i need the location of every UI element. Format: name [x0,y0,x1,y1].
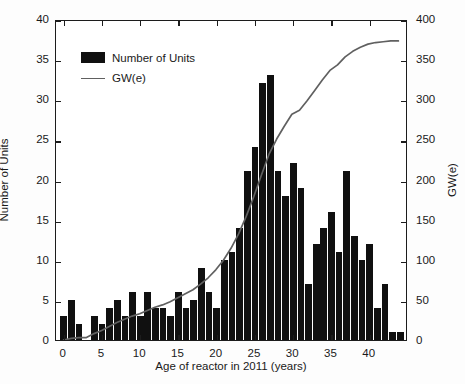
y-tick-label-right: 400 [416,14,435,26]
y-tick-label-left: 0 [16,335,49,347]
y-tick-label-left: 10 [16,255,49,267]
y-tick-label-left: 15 [16,215,49,227]
x-tick-top [293,21,294,26]
x-tick-bottom [102,335,103,340]
y-tick-label-right: 200 [416,175,435,187]
y-tick-left [56,182,61,183]
x-tick-bottom [293,335,294,340]
x-tick-bottom [331,335,332,340]
legend: Number of Units GW(e) [81,49,206,89]
x-tick-top [140,21,141,26]
y-tick-label-left: 35 [16,54,49,66]
y-tick-left [56,101,61,102]
y-tick-right [401,222,406,223]
x-tick-bottom [64,335,65,340]
y-tick-label-right: 250 [416,135,435,147]
x-tick-bottom [255,335,256,340]
y-tick-label-right: 150 [416,215,435,227]
y-tick-label-left: 30 [16,95,49,107]
y-tick-right [401,141,406,142]
x-tick-label: 15 [171,348,184,360]
legend-label-number-of-units: Number of Units [112,52,195,64]
y-tick-left [56,21,61,22]
legend-item-number-of-units: Number of Units [81,49,206,66]
x-tick-top [217,21,218,26]
y-tick-label-right: 300 [416,95,435,107]
x-tick-top [64,21,65,26]
x-tick-bottom [140,335,141,340]
x-tick-bottom [370,335,371,340]
y-axis-title-right: GW(e) [446,163,458,197]
legend-line-swatch-icon [81,72,105,83]
y-tick-left [56,141,61,142]
y-tick-left [56,222,61,223]
y-tick-right [401,302,406,303]
x-tick-top [102,21,103,26]
legend-item-gwe: GW(e) [81,69,206,86]
x-tick-label: 10 [133,348,146,360]
y-tick-right [401,262,406,263]
figure-canvas: Number of Units GW(e) Age of reactor in … [0,0,465,384]
x-tick-label: 25 [248,348,261,360]
y-tick-left [56,262,61,263]
x-tick-label: 35 [324,348,337,360]
y-axis-title-left: Number of Units [0,138,10,221]
y-tick-left [56,61,61,62]
x-tick-top [331,21,332,26]
x-tick-bottom [178,335,179,340]
y-tick-label-right: 50 [416,295,429,307]
y-tick-label-left: 20 [16,175,49,187]
y-tick-label-right: 350 [416,54,435,66]
x-tick-label: 0 [59,348,65,360]
y-tick-label-left: 5 [16,295,49,307]
x-tick-label: 5 [98,348,104,360]
y-tick-right [401,61,406,62]
plot-area: Number of Units GW(e) [55,20,407,341]
x-tick-top [178,21,179,26]
y-tick-label-right: 0 [416,335,422,347]
x-tick-bottom [217,335,218,340]
x-tick-label: 20 [209,348,222,360]
y-tick-label-left: 25 [16,135,49,147]
y-tick-right [401,21,406,22]
x-tick-label: 30 [286,348,299,360]
y-tick-label-left: 40 [16,14,49,26]
y-tick-right [401,101,406,102]
x-tick-top [255,21,256,26]
x-tick-top [370,21,371,26]
y-tick-right [401,182,406,183]
x-axis-title: Age of reactor in 2011 (years) [155,360,306,372]
legend-label-gwe: GW(e) [112,72,146,84]
y-tick-label-right: 100 [416,255,435,267]
legend-bar-swatch-icon [81,52,105,63]
y-tick-left [56,302,61,303]
x-tick-label: 40 [362,348,375,360]
